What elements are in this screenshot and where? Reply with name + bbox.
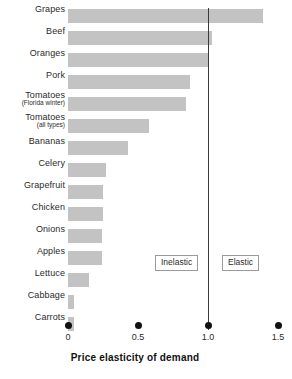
bar-row: Celery [0,159,292,181]
x-axis: 00.51.01.5 Price elasticity of demand [0,322,292,379]
bar-category-label: Celery [0,159,65,168]
bar-category-label: Oranges [0,49,65,58]
bar [68,185,103,199]
bar-row: Cabbage [0,291,292,313]
bar-row: Lettuce [0,269,292,291]
bar-category-name: Grapes [0,5,65,14]
x-axis-tick-label: 1.5 [258,332,292,342]
x-axis-tick-label: 1.0 [188,332,228,342]
bar-row: Onions [0,225,292,247]
bar-category-label: Onions [0,225,65,234]
bar-category-name: Celery [0,159,65,168]
bar [68,229,102,243]
bar-row: Bananas [0,137,292,159]
bar-category-label: Grapefruit [0,181,65,190]
annotation-inelastic: Inelastic [155,255,198,271]
plot-area: GrapesBeefOrangesPorkTomatoes(Florida wi… [0,0,292,340]
x-axis-tick-dot [65,322,72,329]
bar-category-sublabel: (all types) [0,122,65,129]
bar-category-name: Cabbage [0,291,65,300]
bar [68,119,149,133]
bar [68,97,186,111]
bar-row: Grapefruit [0,181,292,203]
x-axis-tick-dot [205,322,212,329]
bar-category-label: Grapes [0,5,65,14]
bar-row: Grapes [0,5,292,27]
bar [68,251,102,265]
bar-category-name: Chicken [0,203,65,212]
bar-row: Tomatoes(all types) [0,115,292,137]
bar-category-name: Grapefruit [0,181,65,190]
bar-row: Beef [0,27,292,49]
bar [68,207,103,221]
bar [68,163,106,177]
bar-category-label: Beef [0,27,65,36]
unit-elastic-reference-line [208,8,209,330]
bar [68,141,128,155]
bar-category-name: Lettuce [0,269,65,278]
bar-category-label: Pork [0,71,65,80]
bar-category-label: Tomatoes(Florida winter) [0,91,65,107]
bar-category-label: Bananas [0,137,65,146]
bar [68,31,212,45]
x-axis-tick-dot [135,322,142,329]
bar-row: Chicken [0,203,292,225]
bar [68,75,190,89]
bar-category-label: Apples [0,247,65,256]
bar-row: Oranges [0,49,292,71]
bar-category-name: Oranges [0,49,65,58]
bar-category-name: Onions [0,225,65,234]
bar-category-label: Cabbage [0,291,65,300]
bar-category-name: Pork [0,71,65,80]
bar [68,9,263,23]
bar-category-label: Chicken [0,203,65,212]
bar-category-name: Apples [0,247,65,256]
bar [68,295,74,309]
x-axis-title: Price elasticity of demand [0,352,292,363]
x-axis-tick-dot [275,322,282,329]
bar [68,273,89,287]
x-axis-tick-label: 0 [48,332,88,342]
bar-category-name: Bananas [0,137,65,146]
annotation-elastic: Elastic [222,255,259,271]
bar-category-label: Tomatoes(all types) [0,113,65,129]
x-axis-title-text: Price elasticity of demand [71,352,222,363]
x-axis-tick-label: 0.5 [118,332,158,342]
bar-category-sublabel: (Florida winter) [0,100,65,107]
price-elasticity-bar-chart: GrapesBeefOrangesPorkTomatoes(Florida wi… [0,0,292,379]
bar [68,53,208,67]
bar-category-name: Beef [0,27,65,36]
bar-category-label: Lettuce [0,269,65,278]
